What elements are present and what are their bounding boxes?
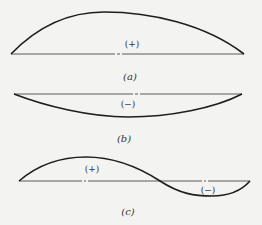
panel-b-caption: (b) [117,133,131,144]
panel-c-negative-label: (−) [201,185,216,195]
panel-c-s-curve [19,157,250,196]
panel-b-negative-label: (−) [121,99,136,109]
panel-c: (+) (−) (c) [19,157,250,217]
panel-a-positive-label: (+) [125,39,140,49]
panel-a: (+) (a) [11,12,244,82]
panel-a-caption: (a) [123,71,137,82]
panel-c-positive-label: (+) [85,164,100,174]
sign-convention-diagram: (+) (a) (−) (b) (+) (−) (c) [0,0,262,225]
panel-c-caption: (c) [121,206,135,217]
panel-b: (−) (b) [14,94,242,144]
